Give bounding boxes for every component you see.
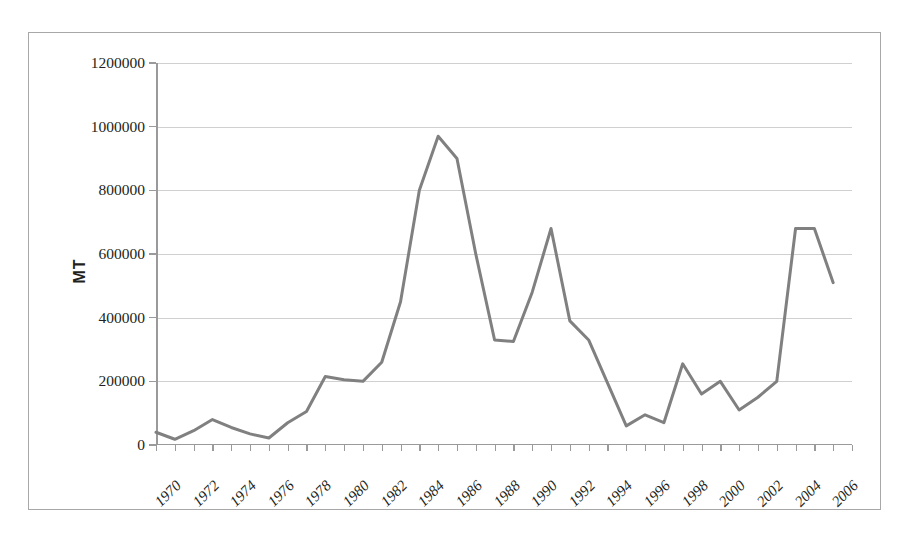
x-tick-label: 1988 xyxy=(490,477,523,510)
x-tick-mark xyxy=(589,445,590,451)
x-tick-label: 1998 xyxy=(678,477,711,510)
x-tick-label: 1974 xyxy=(227,477,260,510)
x-tick-mark xyxy=(513,445,514,451)
x-tick-mark xyxy=(720,445,721,451)
series-polyline xyxy=(156,136,833,439)
x-tick-mark xyxy=(306,445,307,451)
y-tick-mark xyxy=(149,253,156,255)
x-tick-label: 1986 xyxy=(453,477,486,510)
x-tick-mark xyxy=(212,445,213,451)
x-tick-label: 1992 xyxy=(565,477,598,510)
x-tick-mark xyxy=(438,445,439,451)
x-tick-mark xyxy=(664,445,665,451)
x-tick-label: 2002 xyxy=(754,477,787,510)
x-tick-mark xyxy=(344,445,345,451)
x-tick-mark xyxy=(194,445,195,451)
x-tick-mark xyxy=(532,445,533,451)
x-tick-label: 2000 xyxy=(716,477,749,510)
x-tick-mark xyxy=(833,445,834,451)
x-tick-mark xyxy=(325,445,326,451)
x-tick-mark xyxy=(476,445,477,451)
x-tick-mark xyxy=(683,445,684,451)
y-tick-label: 1200000 xyxy=(91,54,145,72)
y-tick-label: 800000 xyxy=(99,181,146,199)
x-tick-label: 1972 xyxy=(189,477,222,510)
x-tick-label: 2006 xyxy=(829,477,862,510)
x-tick-mark xyxy=(250,445,251,451)
x-tick-mark xyxy=(814,445,815,451)
x-tick-label: 1970 xyxy=(152,477,185,510)
x-tick-mark xyxy=(626,445,627,451)
x-tick-label: 1990 xyxy=(528,477,561,510)
y-tick-mark xyxy=(149,317,156,319)
x-tick-mark xyxy=(495,445,496,451)
y-tick-mark xyxy=(149,381,156,383)
y-tick-label: 0 xyxy=(137,436,145,454)
x-tick-mark xyxy=(419,445,420,451)
x-tick-mark xyxy=(570,445,571,451)
y-tick-label: 1000000 xyxy=(91,118,145,136)
y-tick-mark xyxy=(149,126,156,128)
data-series-line xyxy=(156,63,852,445)
x-tick-mark xyxy=(382,445,383,451)
y-tick-mark xyxy=(149,444,156,446)
x-tick-mark xyxy=(401,445,402,451)
x-tick-mark xyxy=(796,445,797,451)
x-tick-mark xyxy=(852,445,853,451)
x-tick-label: 1978 xyxy=(302,477,335,510)
x-tick-label: 1982 xyxy=(377,477,410,510)
x-tick-mark xyxy=(758,445,759,451)
y-tick-mark xyxy=(149,62,156,64)
x-tick-mark xyxy=(231,445,232,451)
x-tick-label: 1976 xyxy=(264,477,297,510)
x-tick-mark xyxy=(645,445,646,451)
x-tick-mark xyxy=(175,445,176,451)
x-tick-mark xyxy=(363,445,364,451)
x-tick-label: 1984 xyxy=(415,477,448,510)
x-tick-mark xyxy=(156,445,157,451)
x-tick-label: 1996 xyxy=(641,477,674,510)
x-tick-label: 1980 xyxy=(340,477,373,510)
x-tick-mark xyxy=(777,445,778,451)
y-tick-label: 200000 xyxy=(99,372,146,390)
x-tick-mark xyxy=(739,445,740,451)
plot-area: 020000040000060000080000010000001200000 … xyxy=(156,63,852,445)
y-axis-title: MT xyxy=(71,258,89,283)
y-tick-label: 600000 xyxy=(99,245,146,263)
y-tick-mark xyxy=(149,190,156,192)
x-tick-mark xyxy=(269,445,270,451)
x-tick-label: 2004 xyxy=(791,477,824,510)
y-tick-label: 400000 xyxy=(99,309,146,327)
x-tick-label: 1994 xyxy=(603,477,636,510)
x-tick-mark xyxy=(457,445,458,451)
x-tick-mark xyxy=(607,445,608,451)
x-tick-mark xyxy=(551,445,552,451)
x-tick-mark xyxy=(288,445,289,451)
x-tick-mark xyxy=(702,445,703,451)
chart-frame: MT 0200000400000600000800000100000012000… xyxy=(28,32,881,510)
